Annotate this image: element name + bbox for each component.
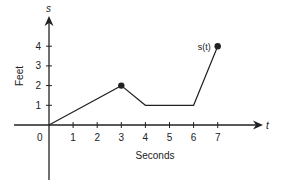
x-tick-label: 2 xyxy=(94,132,100,143)
series-line-s-of-t xyxy=(49,46,218,125)
x-tick-label: 1 xyxy=(70,132,76,143)
y-tick-label: 1 xyxy=(35,100,41,111)
y-tick-label: 4 xyxy=(35,41,41,52)
x-axis-label: Seconds xyxy=(136,150,175,161)
series-annotation: s(t) xyxy=(198,42,211,52)
data-point-marker xyxy=(118,82,124,88)
origin-label: 0 xyxy=(37,132,43,143)
x-tick-label: 5 xyxy=(167,132,173,143)
x-tick-label: 6 xyxy=(191,132,197,143)
distance-time-chart: t s 1234567 1234 0 Seconds Feet s(t) xyxy=(0,0,282,194)
x-tick-label: 3 xyxy=(119,132,125,143)
y-axis-var: s xyxy=(46,3,51,14)
y-tick-label: 2 xyxy=(35,80,41,91)
y-axis-label: Feet xyxy=(14,66,25,86)
x-tick-label: 7 xyxy=(215,132,221,143)
x-tick-label: 4 xyxy=(143,132,149,143)
y-tick-label: 3 xyxy=(35,60,41,71)
x-axis-var: t xyxy=(266,120,270,131)
data-point-marker xyxy=(215,43,221,49)
